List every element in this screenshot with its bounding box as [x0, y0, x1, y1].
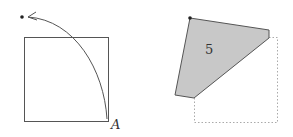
corner-point-dot [188, 16, 192, 20]
corner-label-a: A [110, 117, 120, 132]
diagram-canvas: A 5 [0, 0, 293, 137]
rotation-arc [28, 17, 107, 119]
left-figure: A [20, 12, 120, 132]
right-figure: 5 [175, 16, 278, 122]
square [25, 38, 109, 122]
region-label: 5 [205, 42, 213, 57]
arrowhead-icon [28, 12, 37, 20]
target-point-dot [20, 15, 24, 19]
folded-region [175, 18, 269, 98]
